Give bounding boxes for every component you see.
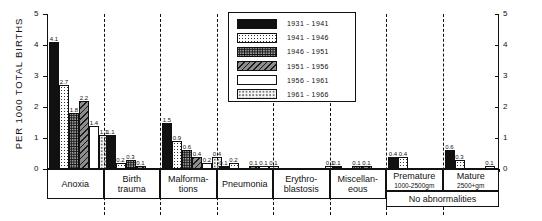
bar-value-label: 0.4 [193,151,201,157]
legend-label-1931-1941: 1931 - 1941 [287,20,329,27]
y-tick [43,76,47,77]
bar-value-label: 0.1 [485,160,493,166]
no-abnormalities-span-label: No abnormalities [386,191,499,207]
category-label-line: eous [348,184,368,195]
legend-label-1946-1951: 1946 - 1951 [287,48,329,55]
bar-group: 1.10.20.30.1 [106,14,166,169]
legend-label-1961-1966: 1961 - 1966 [287,91,329,98]
bar-value-label: 1.1 [106,129,114,135]
y-tick-label: 4 [34,41,38,49]
legend-item: 1961 - 1966 [237,88,355,101]
legend: 1931 - 1941 1941 - 1946 1946 - 1951 1951… [228,12,356,102]
legend-item: 1951 - 1956 [237,60,355,73]
bar-value-label: 0.9 [173,135,181,141]
bar-group: 1.50.90.60.40.20.4 [162,14,222,169]
y-tick-label: 3 [34,72,38,80]
bar-value-label: 0.1 [362,160,370,166]
y-axis-title: PER 1000 TOTAL BIRTHS [13,9,24,159]
figure: PER 1000 TOTAL BIRTHS 0011223344554.12.7… [0,0,542,221]
bar-value-label: 2.2 [80,95,88,101]
category-label-line: Miscellan- [337,174,378,185]
x-minor-tick [499,169,500,172]
bar-value-label: 0.1 [332,160,340,166]
category-label-line: Malforma- [168,174,209,185]
category-label-line: Erythro- [285,174,317,185]
category-label-4: Erythro-blastosis [273,169,330,199]
bar-group: 0.40.4 [388,14,448,169]
bar-value-label: 0.2 [229,157,237,163]
category-label-line: 1000-2500gm [394,182,434,190]
bar: 4.1 [49,42,59,169]
bar-value-label: 0.1 [136,160,144,166]
legend-swatch-1961-1966 [237,89,277,99]
legend-swatch-1941-1946 [237,33,277,43]
category-label-line: 2500+gm [457,182,484,190]
legend-swatch-1951-1956 [237,61,277,71]
legend-item: 1941 - 1946 [237,31,355,44]
bar-value-label: 0.4 [399,151,407,157]
bar-value-label: 0.1 [352,160,360,166]
bar-value-label: 0.3 [455,154,463,160]
bar-value-label: 0.1 [259,160,267,166]
bar-value-label: 2.7 [60,79,68,85]
category-label-line: trauma [118,184,146,195]
bar-group: 0.60.30.1 [445,14,505,169]
legend-item: 1931 - 1941 [237,17,355,30]
y-axis-left [47,14,48,169]
bar-value-label: 4.1 [50,36,58,42]
category-label-3: Pneumonia [217,169,274,199]
bar-group: 4.12.71.82.21.41.1 [49,14,109,169]
legend-item: 1956 - 1961 [237,74,355,87]
bar: 0.3 [455,160,465,169]
bar: 2.7 [59,85,69,169]
category-label-2: Malforma-tions [160,169,217,199]
bar-value-label: 0.1 [219,160,227,166]
category-label-line: Birth [122,174,141,185]
category-label-line: Anoxia [61,179,89,190]
category-label-line: blastosis [284,184,319,195]
y-tick-label: 1 [34,134,38,142]
y-tick-label: 0 [34,165,38,173]
bar: 0.9 [172,141,182,169]
bar-value-label: 1.4 [90,120,98,126]
legend-label-1951-1956: 1951 - 1956 [287,63,329,70]
category-label-5: Miscellan-eous [330,169,387,199]
bar: 0.4 [398,157,408,169]
bar-value-label: 0.4 [389,151,397,157]
bar-value-label: 0.3 [126,154,134,160]
legend-label-1941-1946: 1941 - 1946 [287,34,329,41]
bar-value-label: 0.1 [249,160,257,166]
legend-swatch-1931-1941 [237,19,277,29]
y-tick [43,107,47,108]
bar: 0.6 [445,150,455,169]
y-tick [43,14,47,15]
category-label-7: Mature2500+gm [443,169,500,191]
bar: 1.4 [89,126,99,169]
category-label-line: Mature [457,171,485,182]
bar-value-label: 0.6 [183,144,191,150]
legend-swatch-1946-1951 [237,47,277,57]
category-label-line: Premature [393,171,435,182]
category-label-1: Birthtrauma [104,169,161,199]
y-tick [43,138,47,139]
legend-label-1956-1961: 1956 - 1961 [287,77,329,84]
bar: 1.1 [106,135,116,169]
bar: 0.4 [192,157,202,169]
legend-item: 1946 - 1951 [237,45,355,58]
bar: 0.3 [126,160,136,169]
bar-value-label: 0.2 [116,157,124,163]
bar: 1.5 [162,123,172,170]
bar-value-label: 1.8 [70,107,78,113]
bar: 0.4 [388,157,398,169]
bar-value-label: 0.2 [203,157,211,163]
category-label-line: tions [179,184,198,195]
bar: 0.6 [182,150,192,169]
legend-swatch-1956-1961 [237,75,277,85]
bar-value-label: 1.5 [163,117,171,123]
bar: 1.8 [69,113,79,169]
category-label-line: Pneumonia [222,179,268,190]
y-tick [43,45,47,46]
y-tick-label: 2 [34,103,38,111]
category-label-0: Anoxia [47,169,104,199]
category-label-6: Premature1000-2500gm [386,169,443,191]
